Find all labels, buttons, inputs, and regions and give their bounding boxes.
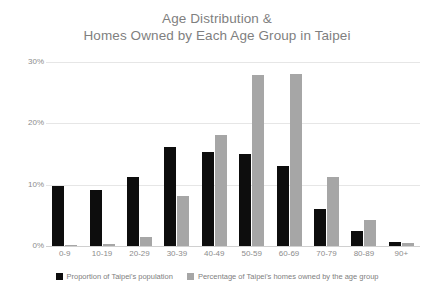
bar-10-19-series-2[interactable] — [103, 244, 115, 246]
bar-group — [121, 62, 158, 246]
bar-70-79-series-2[interactable] — [327, 177, 339, 246]
x-axis-label-60-69: 60-69 — [270, 249, 307, 259]
y-axis-tick-label: 10% — [4, 181, 44, 189]
bar-80-89-series-1[interactable] — [351, 231, 363, 246]
legend-swatch-icon — [56, 273, 63, 280]
bar-group — [383, 62, 420, 246]
bar-group — [46, 62, 83, 246]
bar-60-69-series-2[interactable] — [290, 74, 302, 246]
x-axis: 0-910-1920-2930-3940-4950-5960-6970-7980… — [46, 249, 420, 263]
bar-30-39-series-2[interactable] — [177, 196, 189, 246]
x-axis-label-20-29: 20-29 — [121, 249, 158, 259]
legend-label: Proportion of Taipei's population — [67, 272, 173, 281]
bars-layer — [46, 62, 420, 246]
y-axis-tick-label: 0% — [4, 242, 44, 250]
bar-70-79-series-1[interactable] — [314, 209, 326, 246]
x-axis-label-90+: 90+ — [383, 249, 420, 259]
chart-container: Age Distribution & Homes Owned by Each A… — [0, 0, 434, 294]
bar-group — [158, 62, 195, 246]
y-axis: 0%10%20%30% — [0, 0, 44, 294]
gridline-0% — [46, 246, 420, 247]
bar-50-59-series-1[interactable] — [239, 154, 251, 246]
bar-80-89-series-2[interactable] — [364, 220, 376, 246]
legend-label: Percentage of Taipei's homes owned by th… — [198, 272, 379, 281]
chart-title: Age Distribution & Homes Owned by Each A… — [0, 10, 434, 44]
legend-swatch-icon — [187, 273, 194, 280]
bar-group — [308, 62, 345, 246]
bar-60-69-series-1[interactable] — [277, 166, 289, 246]
bar-0-9-series-2[interactable] — [65, 245, 77, 246]
bar-0-9-series-1[interactable] — [52, 186, 64, 246]
x-axis-label-80-89: 80-89 — [345, 249, 382, 259]
x-axis-label-40-49: 40-49 — [196, 249, 233, 259]
bar-group — [345, 62, 382, 246]
bar-30-39-series-1[interactable] — [164, 147, 176, 246]
chart-title-line-1: Age Distribution & — [0, 10, 434, 27]
chart-legend: Proportion of Taipei's populationPercent… — [0, 272, 434, 281]
plot-area — [46, 62, 420, 246]
y-axis-tick-label: 20% — [4, 119, 44, 127]
legend-item-1[interactable]: Proportion of Taipei's population — [56, 272, 173, 281]
chart-title-line-2: Homes Owned by Each Age Group in Taipei — [0, 27, 434, 44]
bar-group — [233, 62, 270, 246]
x-axis-label-30-39: 30-39 — [158, 249, 195, 259]
bar-20-29-series-1[interactable] — [127, 177, 139, 246]
x-axis-label-50-59: 50-59 — [233, 249, 270, 259]
bar-40-49-series-2[interactable] — [215, 135, 227, 246]
bar-group — [83, 62, 120, 246]
bar-90+-series-2[interactable] — [402, 243, 414, 246]
bar-group — [270, 62, 307, 246]
bar-90+-series-1[interactable] — [389, 242, 401, 246]
x-axis-label-0-9: 0-9 — [46, 249, 83, 259]
y-axis-tick-label: 30% — [4, 58, 44, 66]
x-axis-label-10-19: 10-19 — [83, 249, 120, 259]
bar-group — [196, 62, 233, 246]
bar-20-29-series-2[interactable] — [140, 237, 152, 246]
x-axis-label-70-79: 70-79 — [308, 249, 345, 259]
bar-50-59-series-2[interactable] — [252, 75, 264, 246]
bar-40-49-series-1[interactable] — [202, 152, 214, 246]
bar-10-19-series-1[interactable] — [90, 190, 102, 246]
legend-item-2[interactable]: Percentage of Taipei's homes owned by th… — [187, 272, 379, 281]
